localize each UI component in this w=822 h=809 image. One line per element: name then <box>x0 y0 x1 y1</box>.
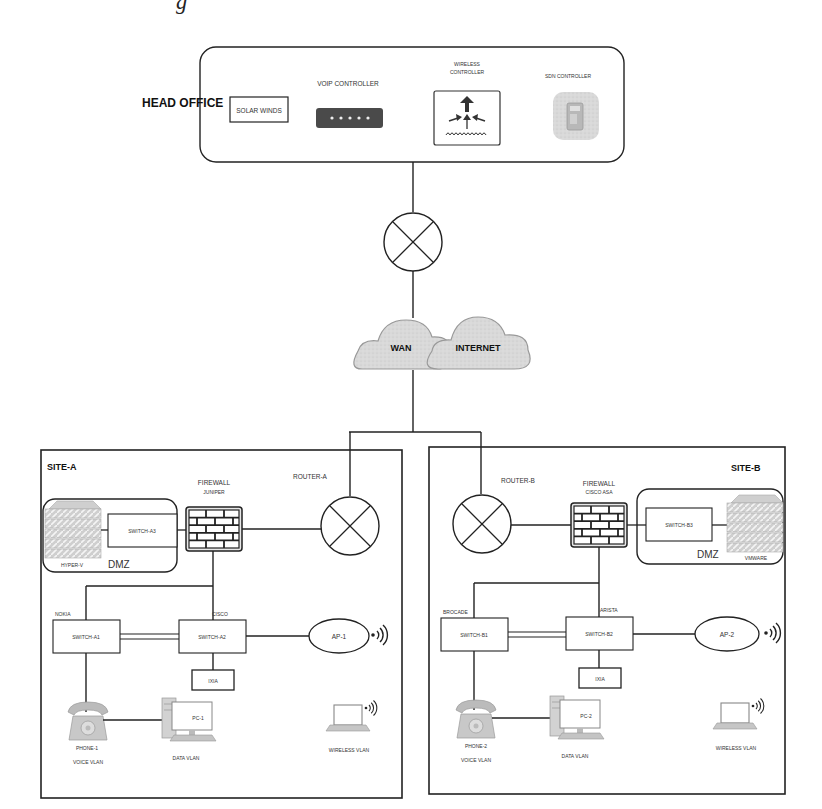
firewall-b-vendor: CISCO ASA <box>586 489 614 495</box>
switch-a1-vendor: NOKIA <box>55 611 71 617</box>
switch-a2-vendor: CISCO <box>212 611 228 617</box>
firewall-a-vendor: JUNIPER <box>203 489 225 495</box>
laptop-a-wifi-icon <box>365 701 377 716</box>
phone-1-icon <box>68 702 108 740</box>
solar-winds-label: SOLAR WINDS <box>236 107 282 114</box>
sdn-controller-label: SDN CONTROLLER <box>545 73 592 79</box>
ap-1-label: AP-1 <box>332 633 347 640</box>
internet-cloud-label: INTERNET <box>456 343 502 353</box>
firewall-a-label: FIREWALL <box>198 479 231 486</box>
phone-2-icon <box>456 700 496 738</box>
ixia-b-label: IXIA <box>595 676 605 682</box>
phone-2-label: PHONE-2 <box>465 743 487 749</box>
site-a-group: SITE-A ROUTER-A FIREWALL JUNIPER HYPER-V… <box>41 450 402 798</box>
pc-1-label: PC-1 <box>192 715 204 721</box>
wan-cloud-label: WAN <box>391 343 412 353</box>
wireless-vlan-b-label: WIRELESS VLAN <box>716 745 757 751</box>
vmware-server-icon <box>727 495 783 552</box>
voice-vlan-b-label: VOICE VLAN <box>461 757 491 763</box>
data-vlan-a-label: DATA VLAN <box>173 755 200 761</box>
ap-1-wifi-icon <box>371 625 387 645</box>
wireless-vlan-a-label: WIRELESS VLAN <box>329 747 370 753</box>
hyper-v-label: HYPER-V <box>61 562 84 568</box>
voip-controller-label: VOIP CONTROLLER <box>317 80 379 87</box>
firewall-b-icon <box>571 503 627 547</box>
vmware-label: VMWARE <box>745 555 768 561</box>
head-office-title: HEAD OFFICE <box>142 96 223 110</box>
ap-2-wifi-icon <box>764 623 780 643</box>
pc-2-icon <box>550 696 604 739</box>
site-b-group: SITE-B ROUTER-B FIREWALL CISCO ASA SWITC… <box>429 447 785 794</box>
switch-b1-label: SWITCH-B1 <box>460 632 488 638</box>
pc-2-label: PC-2 <box>580 713 592 719</box>
hyper-v-server-icon <box>45 501 101 558</box>
sdn-controller-icon <box>553 92 599 140</box>
router-b-label: ROUTER-B <box>501 477 535 484</box>
switch-a3-label: SWITCH-A3 <box>128 528 156 534</box>
laptop-a-icon <box>326 705 370 731</box>
wireless-controller-label-2: CONTROLLER <box>450 69 485 75</box>
switch-a1-label: SWITCH-A1 <box>72 634 100 640</box>
site-a-title: SITE-A <box>47 462 77 472</box>
switch-b2-label: SWITCH-B2 <box>585 631 613 637</box>
voice-vlan-a-label: VOICE VLAN <box>73 759 103 765</box>
core-router-icon <box>384 213 442 271</box>
switch-a2-label: SWITCH-A2 <box>198 634 226 640</box>
pc-1-icon <box>162 698 216 741</box>
firewall-b-label: FIREWALL <box>583 480 616 487</box>
dmz-a-label: DMZ <box>108 559 130 570</box>
dmz-b-label: DMZ <box>697 549 719 560</box>
router-a-label: ROUTER-A <box>293 473 328 480</box>
wireless-controller-label-1: WIRELESS <box>454 61 481 67</box>
switch-b3-label: SWITCH-B3 <box>665 522 693 528</box>
network-diagram: g HEAD OFFICE SOLAR WINDS VOIP CONTROLLE… <box>0 0 822 809</box>
header-text-fragment: g <box>176 0 187 14</box>
laptop-b-icon <box>713 703 757 729</box>
ap-2-label: AP-2 <box>720 631 735 638</box>
phone-1-label: PHONE-1 <box>76 745 98 751</box>
switch-b1-vendor: BROCADE <box>443 609 468 615</box>
firewall-a-icon <box>186 507 242 551</box>
wireless-controller-icon <box>434 91 500 145</box>
router-a-icon <box>321 497 379 555</box>
data-vlan-b-label: DATA VLAN <box>562 753 589 759</box>
switch-b2-vendor: ARISTA <box>600 607 618 613</box>
voip-controller-icon <box>316 108 383 128</box>
ixia-a-label: IXIA <box>208 678 218 684</box>
laptop-b-wifi-icon <box>752 699 764 714</box>
router-b-icon <box>453 495 511 553</box>
site-b-title: SITE-B <box>731 463 761 473</box>
head-office-group: HEAD OFFICE SOLAR WINDS VOIP CONTROLLER … <box>142 47 624 162</box>
